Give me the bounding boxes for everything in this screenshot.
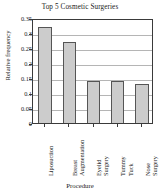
bar (38, 27, 51, 123)
x-tick-mark (93, 124, 94, 127)
y-tick-label: 0.35 (3, 16, 32, 22)
y-tick-label: 0.3 (3, 31, 32, 37)
x-tick-mark (44, 124, 45, 127)
y-tick-label: 0.25 (3, 46, 32, 52)
x-tick-label: Tuck (127, 163, 134, 176)
y-tick-label: 0.05 (3, 106, 32, 112)
x-tick-label: Tummy (119, 156, 126, 176)
bar (111, 81, 124, 123)
y-tick-label: 0.15 (3, 76, 32, 82)
x-tick-label: Nose (144, 163, 151, 176)
x-tick-label: Liposuction (47, 146, 54, 176)
x-axis-label: Procedure (0, 182, 160, 190)
bar (63, 42, 76, 123)
x-tick-label: Surgery (102, 156, 109, 176)
y-tick-label: 0.1 (3, 91, 32, 97)
x-tick-mark (68, 124, 69, 127)
x-tick-mark (117, 124, 118, 127)
bars-layer (33, 20, 152, 123)
plot-area (32, 19, 153, 124)
x-tick-mark (141, 124, 142, 127)
x-axis-ticks: LiposuctionBreastAugmentationEyelidSurge… (32, 124, 153, 182)
bar (135, 84, 148, 123)
y-tick-label: 0 (3, 121, 32, 127)
x-tick-label: Breast (71, 160, 78, 176)
x-tick-label: Augmentation (78, 140, 85, 176)
x-tick-label: Surgery (151, 156, 158, 176)
y-tick-label: 0.2 (3, 61, 32, 67)
chart-title: Top 5 Cosmetic Surgeries (0, 3, 160, 12)
y-axis-ticks: 00.050.10.150.20.250.30.35 (0, 19, 32, 124)
bar-chart: Top 5 Cosmetic Surgeries Relative freque… (0, 0, 160, 196)
bar (87, 81, 100, 123)
